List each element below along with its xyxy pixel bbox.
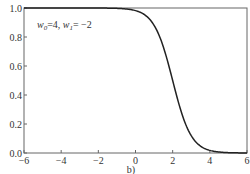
x-tick-label: 4: [207, 155, 212, 166]
y-tick-labels: 0.00.20.40.60.81.0: [10, 3, 23, 159]
y-tick-label: 1.0: [10, 3, 23, 14]
x-tick-label: 6: [245, 155, 250, 166]
y-tick-label: 0.6: [10, 61, 23, 72]
figure-caption: b): [127, 164, 135, 174]
x-tick-label: 2: [170, 155, 175, 166]
x-tick-label: −4: [56, 155, 67, 166]
y-tick-label: 0.4: [10, 90, 23, 101]
y-tick-label: 0.0: [10, 148, 23, 159]
y-tick-label: 0.2: [10, 119, 23, 130]
y-tick-label: 0.8: [10, 32, 23, 43]
chart-canvas: −6−4−20246 0.00.20.40.60.81.0 w0=4, w1= …: [0, 0, 250, 174]
x-tick-label: −2: [93, 155, 104, 166]
weights-annotation: w0=4, w1= −2: [37, 19, 92, 32]
